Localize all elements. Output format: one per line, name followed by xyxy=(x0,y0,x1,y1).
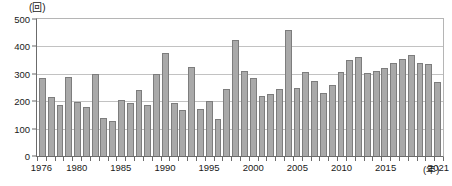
bar-2015 xyxy=(381,68,388,156)
y-tick-mark-300 xyxy=(32,73,36,74)
bar-slot xyxy=(38,19,47,156)
bar-2006 xyxy=(302,72,309,156)
bar-slot xyxy=(82,19,91,156)
x-tick-mark xyxy=(364,157,365,161)
y-tick-mark-100 xyxy=(32,128,36,129)
bar-2009 xyxy=(329,85,336,156)
x-tick-mark xyxy=(161,157,162,161)
bar-slot xyxy=(266,19,275,156)
x-tick-mark xyxy=(125,157,126,161)
x-tick-mark xyxy=(72,157,73,161)
bar-slot xyxy=(187,19,196,156)
bar-slot xyxy=(240,19,249,156)
x-tick-mark xyxy=(258,157,259,161)
bar-1996 xyxy=(215,119,222,156)
x-tick-mark xyxy=(275,157,276,161)
bar-slot xyxy=(363,19,372,156)
x-tick-mark xyxy=(214,157,215,161)
bar-slot xyxy=(328,19,337,156)
bar-slot xyxy=(389,19,398,156)
bar-slot xyxy=(249,19,258,156)
bar-1989 xyxy=(153,74,160,156)
bar-1997 xyxy=(223,89,230,156)
bar-2012 xyxy=(355,57,362,156)
bar-slot xyxy=(47,19,56,156)
bar-slot xyxy=(345,19,354,156)
bar-slot xyxy=(407,19,416,156)
x-tick-mark xyxy=(293,157,294,161)
x-tick-mark xyxy=(231,157,232,161)
bar-slot xyxy=(284,19,293,156)
x-tick-mark xyxy=(143,157,144,161)
bar-slot xyxy=(231,19,240,156)
bar-slot xyxy=(143,19,152,156)
bar-slot xyxy=(214,19,223,156)
y-tick-label-0: 0 xyxy=(0,151,30,162)
bar-1994 xyxy=(197,109,204,156)
bar-2010 xyxy=(338,72,345,156)
bar-1980 xyxy=(74,102,81,156)
x-tick-mark xyxy=(55,157,56,161)
x-axis-unit-label: (年) xyxy=(423,162,439,176)
x-tick-mark xyxy=(90,157,91,161)
bar-slot xyxy=(275,19,284,156)
y-tick-label-300: 300 xyxy=(0,68,30,79)
plot-area xyxy=(36,18,444,157)
y-tick-label-500: 500 xyxy=(0,14,30,25)
bar-slot xyxy=(301,19,310,156)
x-tick-mark xyxy=(381,157,382,161)
bar-slot xyxy=(179,19,188,156)
bar-1978 xyxy=(57,105,64,156)
x-tick-label-1980: 1980 xyxy=(66,162,87,173)
bar-1988 xyxy=(144,105,151,156)
bar-1977 xyxy=(48,97,55,156)
x-tick-label-2015: 2015 xyxy=(375,162,396,173)
bar-2016 xyxy=(390,63,397,156)
bar-1976 xyxy=(39,78,46,156)
x-tick-mark xyxy=(81,157,82,161)
bar-slot xyxy=(398,19,407,156)
bar-slot xyxy=(354,19,363,156)
x-tick-mark xyxy=(284,157,285,161)
bar-slot xyxy=(56,19,65,156)
x-tick-mark xyxy=(266,157,267,161)
x-tick-mark xyxy=(108,157,109,161)
bar-1987 xyxy=(136,90,143,156)
y-tick-label-100: 100 xyxy=(0,123,30,134)
y-tick-label-400: 400 xyxy=(0,41,30,52)
x-tick-mark xyxy=(425,157,426,161)
bar-slot xyxy=(126,19,135,156)
x-tick-mark xyxy=(169,157,170,161)
bar-1995 xyxy=(206,101,213,156)
bar-slot xyxy=(205,19,214,156)
bar-slot xyxy=(319,19,328,156)
y-tick-label-200: 200 xyxy=(0,96,30,107)
bar-slot xyxy=(424,19,433,156)
bar-slot xyxy=(108,19,117,156)
bar-2020 xyxy=(425,64,432,156)
bar-1991 xyxy=(171,103,178,156)
bar-slot xyxy=(135,19,144,156)
bar-slot xyxy=(416,19,425,156)
x-tick-mark xyxy=(37,157,38,161)
x-tick-mark xyxy=(249,157,250,161)
bar-slot xyxy=(293,19,302,156)
x-tick-label-1976: 1976 xyxy=(31,162,52,173)
x-tick-mark xyxy=(302,157,303,161)
bar-2014 xyxy=(373,71,380,156)
x-tick-mark xyxy=(134,157,135,161)
x-tick-mark xyxy=(240,157,241,161)
x-tick-mark xyxy=(196,157,197,161)
bar-slot xyxy=(337,19,346,156)
bar-2019 xyxy=(417,63,424,156)
x-tick-label-2000: 2000 xyxy=(243,162,264,173)
x-tick-mark xyxy=(355,157,356,161)
y-tick-mark-500 xyxy=(32,19,36,20)
bar-slot xyxy=(196,19,205,156)
bar-1985 xyxy=(118,100,125,156)
bar-1998 xyxy=(232,40,239,156)
x-tick-mark xyxy=(187,157,188,161)
x-tick-mark xyxy=(434,157,435,161)
bar-1993 xyxy=(188,67,195,156)
x-tick-mark xyxy=(311,157,312,161)
